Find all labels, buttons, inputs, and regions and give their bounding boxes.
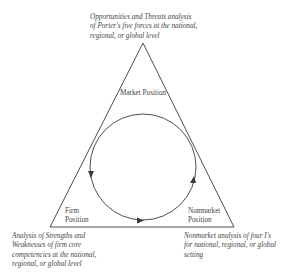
note-line: regional, or global level	[90, 32, 200, 41]
note-line: regional, or global level	[12, 260, 112, 269]
strengths-weaknesses-note: Analysis of Strengths and Weaknesses of …	[12, 232, 112, 270]
label-line: Position	[188, 216, 220, 225]
opportunities-threats-note: Opportunities and Threats analysis of Po…	[90, 13, 200, 41]
note-line: Weaknesses of firm core	[12, 241, 112, 250]
note-line: of Porter's five forces at the national,	[90, 22, 200, 31]
arrow-right-icon	[137, 218, 144, 224]
label-line: Position	[65, 216, 89, 225]
firm-position-label: Firm Position	[65, 207, 89, 225]
note-line: competencies at the national,	[12, 251, 112, 260]
label-line: Nonmarket	[188, 207, 220, 216]
note-line: Analysis of Strengths and	[12, 232, 112, 241]
nonmarket-analysis-note: Nonmarket analysis of four I's for natio…	[184, 232, 284, 260]
market-position-label: Market Position	[120, 89, 166, 98]
note-line: Nonmarket analysis of four I's	[184, 232, 284, 241]
arrow-down-icon	[88, 171, 94, 178]
nonmarket-position-label: Nonmarket Position	[188, 207, 220, 225]
strategy-triangle-diagram: Opportunities and Threats analysis of Po…	[0, 0, 284, 278]
cycle-circle	[90, 114, 196, 220]
note-line: for national, regional, or global	[184, 241, 284, 250]
label-line: Firm	[65, 207, 89, 216]
triangle-outline	[50, 43, 234, 227]
note-line: setting	[184, 251, 284, 260]
note-line: Opportunities and Threats analysis	[90, 13, 200, 22]
